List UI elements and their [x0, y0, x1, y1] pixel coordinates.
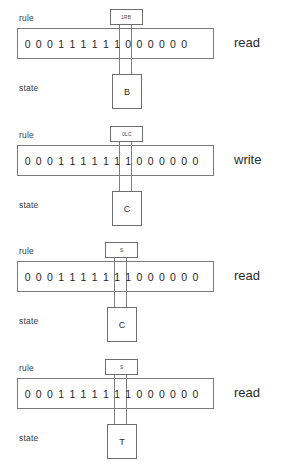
action-label: write [234, 152, 261, 168]
rule-box: 1RB [110, 9, 143, 25]
state-caption: state [19, 433, 38, 443]
rule-box: S [105, 359, 138, 375]
state-box: T [107, 424, 137, 459]
action-label: read [234, 35, 260, 51]
state-value: T [119, 437, 125, 447]
rule-value: 1RB [122, 14, 132, 20]
tape-strip [17, 145, 214, 176]
state-caption: state [19, 83, 38, 93]
turing-step-panel: rule S 0 0 0 1 1 1 1 1 1 1 0 0 0 0 0 0 s… [0, 358, 304, 470]
rule-value: S [120, 247, 123, 253]
action-label: read [234, 268, 260, 284]
tape-head-icon [119, 20, 132, 80]
state-value: C [119, 320, 126, 330]
rule-caption: rule [19, 130, 34, 140]
state-box: C [107, 307, 137, 342]
tape-head-icon [114, 253, 127, 313]
tape-strip [17, 28, 214, 59]
rule-box: 0LC [110, 126, 143, 142]
state-caption: state [19, 316, 38, 326]
rule-box: S [105, 242, 138, 258]
rule-value: S [120, 364, 123, 370]
rule-caption: rule [19, 246, 34, 256]
state-value: C [124, 204, 131, 214]
diagram-canvas: rule 1RB 0 0 0 1 1 1 1 1 1 0 0 0 0 0 0 s… [0, 0, 304, 470]
state-caption: state [19, 200, 38, 210]
rule-value: 0LC [122, 131, 131, 137]
state-value: B [124, 87, 130, 97]
action-label: read [234, 385, 260, 401]
tape-head-icon [119, 137, 132, 197]
turing-step-panel: rule S 0 0 0 1 1 1 1 1 1 1 0 0 0 0 0 0 s… [0, 241, 304, 358]
turing-step-panel: rule 0LC 0 0 0 1 1 1 1 1 1 1 0 0 0 0 0 0… [0, 125, 304, 242]
turing-step-panel: rule 1RB 0 0 0 1 1 1 1 1 1 0 0 0 0 0 0 s… [0, 8, 304, 125]
state-box: C [112, 191, 142, 226]
state-box: B [112, 74, 142, 109]
rule-caption: rule [19, 13, 34, 23]
tape-head-icon [114, 370, 127, 430]
rule-caption: rule [19, 363, 34, 373]
